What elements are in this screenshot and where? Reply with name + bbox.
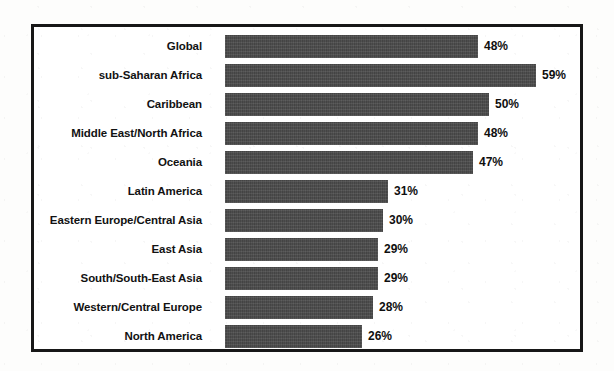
category-label: Global	[167, 35, 202, 58]
bar-row: sub-Saharan Africa 59%	[34, 64, 580, 87]
category-label: South/South-East Asia	[81, 267, 202, 290]
bar-row: Caribbean 50%	[34, 93, 580, 116]
bar-row: Eastern Europe/Central Asia 30%	[34, 209, 580, 232]
bar-row: Global 48%	[34, 35, 580, 58]
bar-value-label: 26%	[368, 325, 392, 348]
bar-value-label: 48%	[484, 35, 508, 58]
bar-row: North America 26%	[34, 325, 580, 348]
category-label: Latin America	[128, 180, 202, 203]
category-label: sub-Saharan Africa	[99, 64, 202, 87]
bar-row: East Asia 29%	[34, 238, 580, 261]
bar-value-label: 28%	[379, 296, 403, 319]
bar-row: Oceania 47%	[34, 151, 580, 174]
bar	[225, 180, 388, 203]
bar	[225, 93, 489, 116]
bar	[225, 35, 478, 58]
bar-value-label: 59%	[542, 64, 566, 87]
bar-row: Western/Central Europe 28%	[34, 296, 580, 319]
bar	[225, 64, 536, 87]
bar-row: Latin America 31%	[34, 180, 580, 203]
bar-value-label: 31%	[394, 180, 418, 203]
bar-value-label: 47%	[479, 151, 503, 174]
category-label: Eastern Europe/Central Asia	[50, 209, 202, 232]
bar	[225, 296, 373, 319]
category-label: Middle East/North Africa	[71, 122, 202, 145]
bar	[225, 209, 383, 232]
category-label: Oceania	[158, 151, 202, 174]
plot-area: Global 48% sub-Saharan Africa 59% Caribb…	[34, 27, 580, 349]
bar-row: Middle East/North Africa 48%	[34, 122, 580, 145]
bar-value-label: 48%	[484, 122, 508, 145]
category-label: Western/Central Europe	[73, 296, 202, 319]
category-label: North America	[124, 325, 202, 348]
bar-value-label: 29%	[384, 267, 408, 290]
chart-frame: Global 48% sub-Saharan Africa 59% Caribb…	[31, 24, 583, 352]
bar	[225, 151, 473, 174]
bar	[225, 238, 378, 261]
bar	[225, 267, 378, 290]
bar	[225, 325, 362, 348]
bar-value-label: 50%	[495, 93, 519, 116]
bar-value-label: 29%	[384, 238, 408, 261]
bar	[225, 122, 478, 145]
category-label: Caribbean	[147, 93, 202, 116]
bar-row: South/South-East Asia 29%	[34, 267, 580, 290]
category-label: East Asia	[152, 238, 202, 261]
bar-value-label: 30%	[389, 209, 413, 232]
